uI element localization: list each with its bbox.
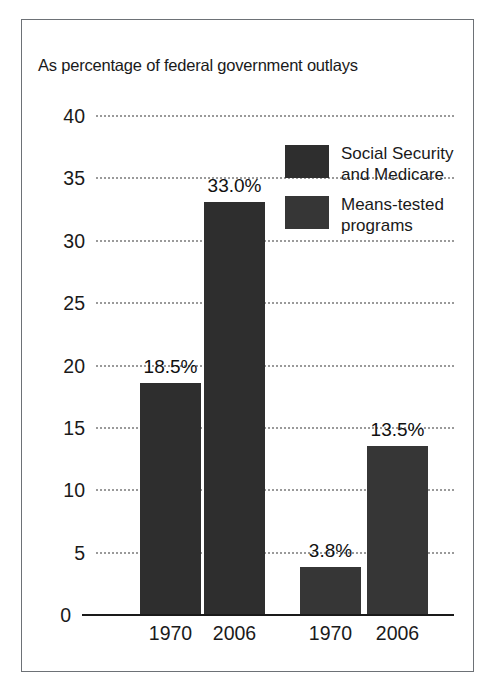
legend-label-line1: Social Security	[341, 144, 453, 163]
y-axis-tick-label: 40	[63, 105, 85, 128]
legend-label-line2: programs	[341, 216, 413, 235]
bar-value-label: 18.5%	[144, 356, 198, 378]
legend-label-social-security: Social Security and Medicare	[341, 143, 453, 185]
chart-legend: Social Security and Medicare Means-teste…	[285, 143, 485, 245]
gridline-25: 25	[96, 302, 454, 304]
x-axis-tick-label: 2006	[376, 622, 419, 645]
bar-value-label: 13.5%	[371, 419, 425, 441]
y-axis-tick-label: 30	[63, 230, 85, 253]
bar-value-label: 33.0%	[208, 175, 262, 197]
bar-value-label: 3.8%	[309, 540, 352, 562]
legend-swatch-means-tested	[285, 196, 329, 229]
y-axis-tick-label: 20	[63, 355, 85, 378]
legend-swatch-social-security	[285, 145, 329, 178]
bar[interactable]	[204, 202, 265, 614]
x-axis-tick-label: 1970	[309, 622, 352, 645]
x-axis-tick-label: 1970	[149, 622, 192, 645]
gridline-40: 40	[96, 115, 454, 117]
bar[interactable]	[300, 567, 361, 614]
bar[interactable]	[367, 446, 428, 614]
gridline-0: 0	[82, 614, 454, 616]
legend-label-line1: Means-tested	[341, 195, 444, 214]
chart-frame: As percentage of federal government outl…	[21, 19, 474, 672]
y-axis-tick-label: 10	[63, 479, 85, 502]
chart-title: As percentage of federal government outl…	[38, 56, 358, 75]
legend-entry-means-tested: Means-tested programs	[285, 194, 485, 236]
legend-entry-social-security: Social Security and Medicare	[285, 143, 485, 185]
y-axis-tick-label: 5	[74, 542, 85, 565]
y-axis-tick-label: 25	[63, 292, 85, 315]
legend-label-means-tested: Means-tested programs	[341, 194, 444, 236]
bar[interactable]	[140, 383, 201, 614]
x-axis-tick-label: 2006	[213, 622, 256, 645]
legend-label-line2: and Medicare	[341, 165, 444, 184]
y-axis-tick-label: 15	[63, 417, 85, 440]
y-axis-tick-label: 0	[60, 604, 71, 627]
y-axis-tick-label: 35	[63, 167, 85, 190]
